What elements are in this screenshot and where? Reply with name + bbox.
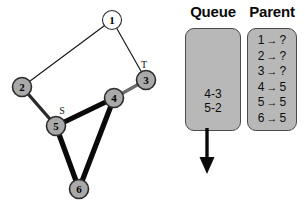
parent-row: 4→5 [258, 80, 286, 96]
queue-panel: Queue 4-35-2 [181, 3, 245, 133]
parent-row-value: 5 [280, 80, 287, 96]
parent-row-list: 1→?2→?3→?4→55→56→5 [247, 33, 297, 126]
parent-panel: Parent 1→?2→?3→?4→55→56→5 [243, 3, 301, 133]
queue-dequeue-arrow-icon [195, 128, 219, 176]
graph-node-4[interactable]: 4 [105, 89, 124, 108]
parent-row-node: 1 [258, 33, 265, 49]
parent-row: 3→? [258, 64, 286, 80]
graph-node-label-1: 1 [109, 14, 115, 26]
graph-node-3[interactable]: 3 [137, 71, 156, 90]
parent-title: Parent [243, 3, 301, 20]
graph-node-label-3: 3 [143, 74, 149, 86]
parent-row-node: 6 [258, 111, 265, 127]
graph-node-5[interactable]: 5 [47, 117, 66, 136]
arrow-right-icon: → [267, 50, 278, 61]
parent-row-node: 2 [258, 49, 265, 65]
parent-row-value: 5 [280, 95, 287, 111]
graph-node-label-5: 5 [53, 120, 59, 132]
bfs-graph-figure: TS123456 Queue 4-35-2 Parent 1→?2→?3→?4→… [0, 0, 305, 208]
graph-edge-1-2 [22, 20, 112, 87]
queue-item: 5-2 [181, 101, 245, 115]
parent-row: 6→5 [258, 111, 286, 127]
parent-row-value: ? [280, 33, 287, 49]
graph-node-tag-S: S [59, 105, 65, 116]
arrow-right-icon: → [267, 97, 278, 108]
parent-row: 1→? [258, 33, 286, 49]
graph-node-6[interactable]: 6 [70, 180, 89, 199]
queue-box [185, 28, 241, 131]
queue-item-list: 4-35-2 [181, 87, 245, 115]
parent-row-node: 3 [258, 64, 265, 80]
graph-diagram: TS123456 [0, 0, 182, 208]
parent-row-value: ? [280, 49, 287, 65]
graph-node-label-4: 4 [111, 92, 117, 104]
parent-row: 2→? [258, 49, 286, 65]
arrow-right-icon: → [267, 112, 278, 123]
arrow-right-icon: → [267, 66, 278, 77]
queue-item: 4-3 [181, 87, 245, 101]
arrow-right-icon: → [267, 81, 278, 92]
parent-row: 5→5 [258, 95, 286, 111]
graph-node-tag-T: T [141, 59, 147, 70]
parent-row-node: 5 [258, 95, 265, 111]
graph-node-1[interactable]: 1 [103, 11, 122, 30]
parent-row-value: ? [280, 64, 287, 80]
graph-edge-1-3 [112, 20, 146, 80]
parent-row-node: 4 [258, 80, 265, 96]
graph-node-label-6: 6 [76, 183, 82, 195]
queue-title: Queue [181, 3, 245, 20]
arrow-right-icon: → [267, 35, 278, 46]
graph-node-label-2: 2 [19, 81, 25, 93]
graph-node-2[interactable]: 2 [13, 78, 32, 97]
parent-row-value: 5 [280, 111, 287, 127]
